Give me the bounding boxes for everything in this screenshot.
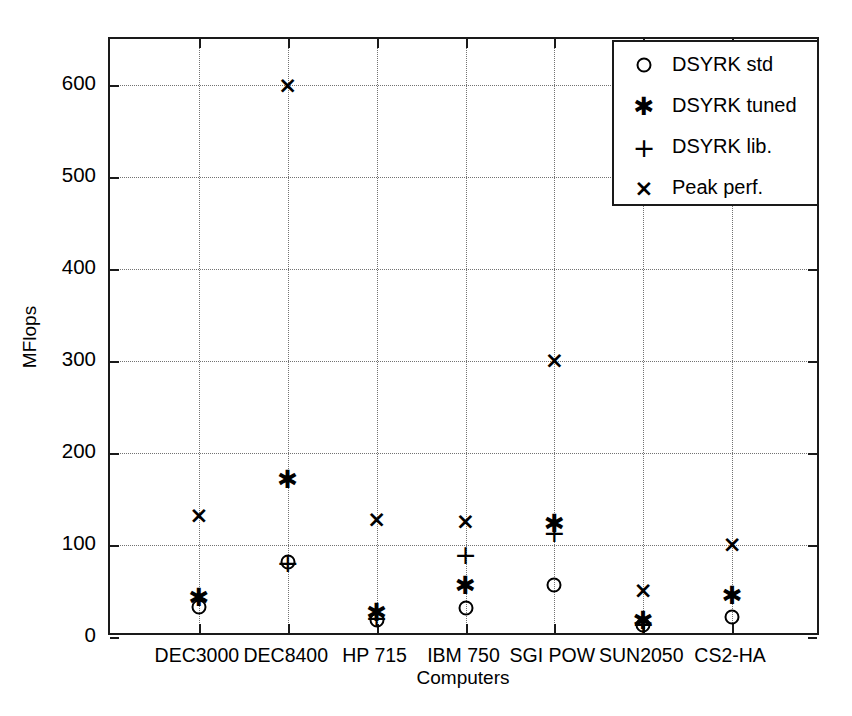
data-point-plus: + [276,548,299,575]
x-tick-label: CS2-HA [694,644,766,667]
legend-marker [614,44,672,85]
x-tick-mark [466,39,468,48]
y-tick-mark [110,269,119,271]
x-tick-label: SUN2050 [599,644,684,667]
data-point-ex: × [545,349,564,372]
x-tick-label: DEC3000 [155,644,240,667]
legend-label: DSYRK lib. [672,135,772,158]
gridline-vertical [288,39,289,633]
x-tick-label: DEC8400 [243,644,328,667]
y-tick-mark [110,177,119,179]
data-point-ex: × [456,510,475,533]
y-tick-mark [808,269,817,271]
data-point-circle [725,609,740,624]
x-tick-mark [554,624,556,633]
x-tick-mark [199,624,201,633]
x-tick-label: SGI POW [510,644,596,667]
y-tick-mark [110,545,119,547]
x-tick-mark [288,624,290,633]
data-point-ex: × [722,533,741,556]
legend-entry: ✱DSYRK tuned [614,85,817,126]
x-tick-label: IBM 750 [427,644,500,667]
data-point-ex: × [189,503,208,526]
gridline-horizontal [110,453,817,454]
legend-entry: ×Peak perf. [614,167,817,208]
y-tick-mark [808,545,817,547]
legend-marker: ✱ [614,85,672,126]
x-tick-mark [377,39,379,48]
y-tick-mark [808,453,817,455]
y-tick-mark [808,361,817,363]
data-point-star: ✱ [277,466,298,491]
x-tick-mark [554,39,556,48]
x-tick-mark [288,39,290,48]
chart-legend: DSYRK std✱DSYRK tuned+DSYRK lib.×Peak pe… [612,40,819,206]
legend-marker: × [614,167,672,208]
y-tick-mark [110,453,119,455]
data-point-circle [547,577,562,592]
marker-circle-icon [637,58,652,73]
data-point-star: ✱ [455,572,476,597]
x-tick-mark [199,39,201,48]
x-tick-label: HP 715 [342,644,407,667]
legend-label: Peak perf. [672,176,763,199]
data-point-plus: + [543,519,566,546]
legend-entry: DSYRK std [614,44,817,85]
x-tick-mark [466,624,468,633]
data-point-circle [458,600,473,615]
legend-label: DSYRK std [672,53,773,76]
y-tick-mark [808,637,817,639]
data-point-ex: × [634,579,653,602]
legend-entry: +DSYRK lib. [614,126,817,167]
y-tick-mark [110,85,119,87]
data-point-ex: × [278,74,297,97]
y-tick-mark [110,637,119,639]
gridline-horizontal [110,269,817,270]
marker-plus-icon: + [633,134,656,161]
data-point-star: ✱ [188,585,209,610]
data-point-plus: + [365,603,388,630]
data-point-ex: × [367,508,386,531]
y-tick-mark [110,361,119,363]
data-point-plus: + [454,541,477,568]
data-point-star: ✱ [722,582,743,607]
gridline-horizontal [110,361,817,362]
x-tick-mark [732,624,734,633]
legend-marker: + [614,126,672,167]
gridline-vertical [377,39,378,633]
marker-star-icon: ✱ [634,94,655,119]
chart-figure: MFlops Computers 0100200300400500600 DEC… [0,0,852,716]
gridline-vertical [199,39,200,633]
legend-label: DSYRK tuned [672,94,797,117]
marker-cross-icon: × [634,177,653,200]
data-point-plus: + [632,610,655,637]
